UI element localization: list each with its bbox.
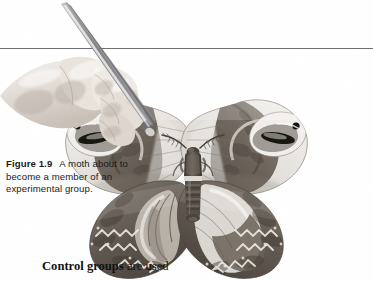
- body-lead-term: Control groups: [42, 259, 124, 273]
- body-rest-text: are used: [124, 259, 169, 273]
- figure-caption: Figure 1.9A moth about to become a membe…: [6, 158, 134, 196]
- figure-caption-line-3: a member of an: [44, 171, 113, 182]
- figure-caption-line-1: A moth: [59, 158, 89, 169]
- body-paragraph: Control groups are used: [42, 259, 169, 274]
- moth-photograph: [0, 0, 373, 281]
- textbook-page: Figure 1.9A moth about to become a membe…: [0, 0, 373, 281]
- figure-label: Figure 1.9: [6, 158, 52, 169]
- figure-caption-line-4: experimental group.: [6, 183, 93, 194]
